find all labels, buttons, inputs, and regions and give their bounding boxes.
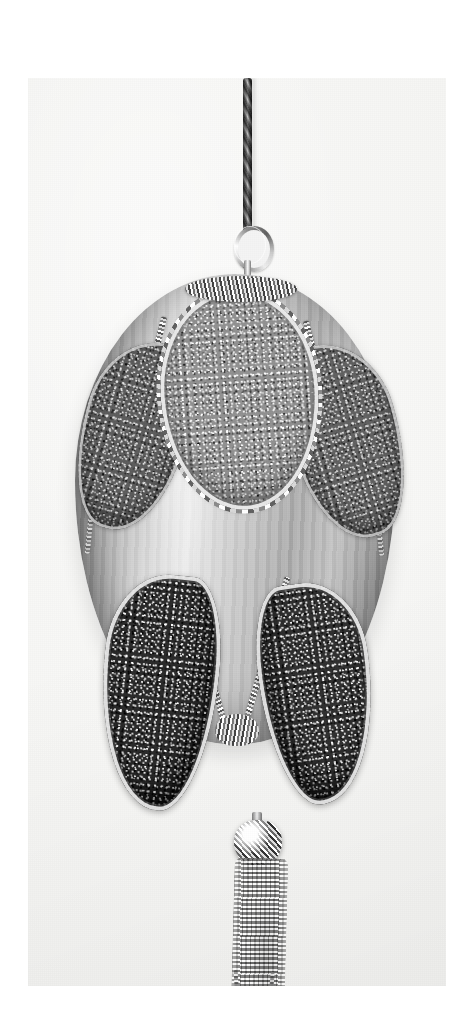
ornament-body (75, 274, 395, 744)
beaded-bottom-knot (215, 714, 259, 746)
photograph (28, 78, 446, 986)
chain-tassel (224, 820, 296, 986)
hanging-cord-shadow (252, 78, 257, 234)
tassel-chain-strands (229, 857, 288, 986)
page-canvas (0, 0, 472, 1030)
hanging-cord (243, 78, 252, 234)
beaded-crown-cap (185, 276, 297, 302)
hanging-ring (234, 226, 274, 272)
